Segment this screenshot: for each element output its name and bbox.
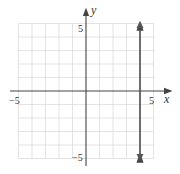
coordinate-plane: y x −5 5 5 −5 xyxy=(0,0,180,174)
y-max-tick-label: 5 xyxy=(78,23,83,34)
x-min-tick-label: −5 xyxy=(9,95,20,106)
arrow-down-icon xyxy=(137,154,144,161)
x-max-tick-label: 5 xyxy=(149,95,154,106)
x-axis-label: x xyxy=(163,92,170,106)
y-min-tick-label: −5 xyxy=(72,152,83,163)
y-axis-label: y xyxy=(90,3,97,17)
arrow-up-icon xyxy=(137,21,144,28)
